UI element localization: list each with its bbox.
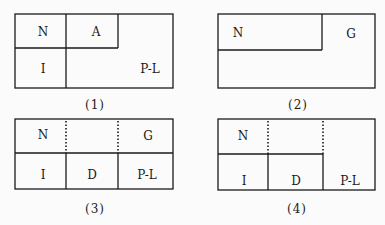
panel-3-caption: (3) [85, 202, 105, 216]
panel-3-label-n: N [38, 128, 49, 142]
panel-3-label-pl: P-L [137, 168, 156, 182]
panel-2-label-n: N [233, 26, 244, 40]
panel-4-caption: (4) [287, 202, 307, 216]
panel-1-label-a: A [92, 25, 101, 39]
panel-1-label-n: N [38, 25, 49, 39]
panel-4-label-d: D [291, 174, 301, 188]
panel-2-label-g: G [346, 27, 356, 41]
panel-3-label-i: I [41, 168, 46, 182]
panel-1-caption: (1) [85, 98, 105, 112]
panel-4-label-n: N [238, 129, 249, 143]
panel-3-label-g: G [143, 129, 153, 143]
panel-4-label-i: I [242, 174, 247, 188]
diagram-lines [0, 0, 385, 225]
panel-1-label-pl: P-L [140, 62, 159, 76]
panel-3-label-d: D [87, 168, 97, 182]
panel-2-caption: (2) [288, 98, 308, 112]
panel-1-label-i: I [41, 62, 46, 76]
panel-4-label-pl: P-L [340, 174, 359, 188]
